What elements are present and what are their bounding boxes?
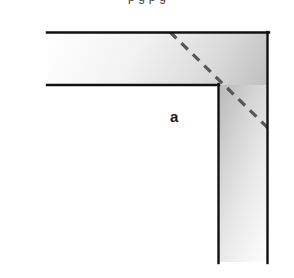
corner-bracket-diagram	[0, 0, 294, 278]
thickness-label-a: a	[170, 109, 178, 125]
bracket-fill	[48, 32, 268, 262]
vertical-arm-fill	[218, 85, 268, 262]
figure-root: p g p g	[0, 0, 294, 278]
